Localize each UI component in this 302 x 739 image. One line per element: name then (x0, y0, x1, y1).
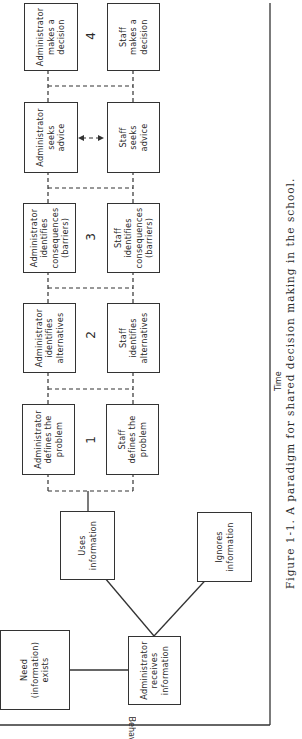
staff-defines-problem-node: Staff defines the problem (106, 404, 159, 475)
time-axis-label: Time (274, 371, 283, 391)
figure-caption: Figure 1-1. A paradigm for shared decisi… (284, 178, 296, 589)
admin-alternatives-node: Administrator identifies alternatives (23, 303, 76, 373)
rotated-figure: Need (information) exists Administrator … (0, 0, 302, 739)
stage-number-4: 4 (84, 26, 98, 46)
ignores-information-node: Ignores information (197, 512, 252, 582)
stage-number-3: 3 (84, 227, 98, 247)
staff-seeks-advice-node: Staff seeks advice (107, 102, 160, 173)
stage-number-2: 2 (84, 325, 98, 345)
behavior-axis-label: Behavior (124, 725, 140, 739)
admin-decision-node: Administrator makes a decision (24, 3, 78, 71)
need-exists-node: Need (information) exists (0, 630, 70, 710)
admin-receives-node: Administrator receives information (128, 636, 181, 705)
admin-seeks-advice-node: Administrator seeks advice (24, 102, 78, 173)
staff-alternatives-node: Staff identifies alternatives (107, 303, 160, 373)
stage-number-1: 1 (84, 430, 98, 450)
admin-consequences-node: Administrator identifies consequences (b… (23, 203, 76, 273)
staff-consequences-node: Staff identifies consequences (barriers) (107, 203, 160, 273)
uses-information-node: Uses information (60, 511, 115, 580)
staff-decision-node: Staff makes a decision (107, 3, 160, 71)
admin-defines-problem-node: Administrator defines the problem (22, 404, 75, 475)
